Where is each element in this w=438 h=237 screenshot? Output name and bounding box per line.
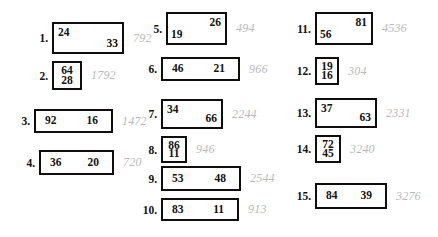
product-value: 2544: [250, 171, 275, 186]
product-value: 913: [248, 202, 267, 217]
problem-number: 2.: [34, 70, 48, 82]
product-value: 2244: [232, 107, 257, 122]
factor-value: 83: [172, 204, 184, 216]
problem-item: 12.1916304: [291, 57, 367, 85]
problem-item: 4.3620720: [21, 150, 142, 175]
problem-item: 13.37632331: [291, 98, 411, 128]
problem-number: 6.: [143, 63, 157, 75]
problem-item: 7.34662244: [143, 99, 257, 129]
factor-box: 8156: [315, 12, 373, 45]
factor-value: 63: [360, 112, 372, 124]
factor-box: 3620: [39, 150, 114, 175]
problem-number: 5.: [148, 23, 162, 35]
factor-value: 33: [107, 38, 119, 50]
problem-number: 7.: [143, 108, 157, 120]
problem-item: 15.84393276: [291, 183, 421, 209]
product-value: 720: [123, 155, 142, 170]
factor-value: 16: [321, 70, 333, 82]
factor-box: 6428: [52, 61, 82, 90]
product-value: 2331: [386, 106, 411, 121]
product-value: 494: [236, 21, 255, 36]
problem-item: 10.8311913: [137, 198, 267, 221]
factor-value: 37: [321, 103, 333, 115]
factor-value: 36: [50, 157, 62, 169]
factor-box: 5348: [161, 166, 241, 191]
factor-box: 3466: [161, 99, 223, 129]
problem-number: 14.: [291, 143, 311, 155]
product-value: 3240: [350, 142, 375, 157]
factor-value: 39: [361, 190, 373, 202]
factor-value: 26: [210, 17, 222, 29]
product-value: 1792: [91, 68, 116, 83]
product-value: 304: [348, 64, 367, 79]
factor-value: 11: [213, 204, 224, 216]
product-value: 966: [249, 62, 268, 77]
factor-box: 3763: [315, 98, 377, 128]
factor-box: 4621: [161, 57, 240, 81]
problem-item: 14.72453240: [291, 135, 375, 163]
problem-number: 9.: [143, 173, 157, 185]
product-value: 4536: [382, 21, 407, 36]
product-value: 946: [196, 142, 215, 157]
factor-value: 24: [58, 27, 70, 39]
problem-number: 13.: [291, 107, 311, 119]
factor-value: 20: [88, 157, 100, 169]
problem-item: 3.92161472: [16, 109, 147, 133]
factor-value: 28: [61, 75, 73, 87]
problem-item: 1.2433792: [34, 22, 152, 54]
factor-box: 8439: [315, 183, 387, 209]
factor-value: 34: [167, 104, 179, 116]
problem-item: 11.81564536: [291, 12, 407, 45]
factor-value: 81: [356, 17, 368, 29]
factor-value: 11: [169, 148, 180, 160]
factor-value: 46: [172, 63, 184, 75]
problem-number: 12.: [291, 65, 311, 77]
problem-item: 9.53482544: [143, 166, 275, 191]
problem-number: 1.: [34, 32, 48, 44]
factor-value: 45: [322, 148, 334, 160]
problem-item: 6.4621966: [143, 57, 268, 81]
factor-value: 21: [214, 63, 226, 75]
factor-value: 19: [171, 29, 183, 41]
factor-box: 2433: [52, 22, 124, 54]
problem-number: 10.: [137, 204, 157, 216]
factor-box: 8611: [161, 136, 187, 163]
factor-box: 1916: [315, 57, 339, 85]
problem-item: 8.8611946: [143, 136, 215, 163]
factor-box: 2619: [166, 12, 227, 45]
factor-box: 8311: [161, 198, 239, 221]
problem-number: 11.: [291, 23, 311, 35]
problem-number: 8.: [143, 144, 157, 156]
problem-number: 4.: [21, 157, 35, 169]
problem-item: 5.2619494: [148, 12, 255, 45]
problem-item: 2.64281792: [34, 61, 116, 90]
factor-value: 53: [172, 173, 184, 185]
product-value: 3276: [396, 189, 421, 204]
worksheet-sheet: 1.24337922.642817923.921614724.36207205.…: [0, 0, 438, 237]
factor-value: 66: [206, 113, 218, 125]
factor-box: 7245: [315, 135, 341, 163]
factor-value: 84: [326, 190, 338, 202]
factor-value: 56: [320, 29, 332, 41]
factor-box: 9216: [34, 109, 113, 133]
problem-number: 3.: [16, 115, 30, 127]
factor-value: 16: [87, 115, 99, 127]
problem-number: 15.: [291, 190, 311, 202]
factor-value: 48: [215, 173, 227, 185]
factor-value: 92: [45, 115, 57, 127]
